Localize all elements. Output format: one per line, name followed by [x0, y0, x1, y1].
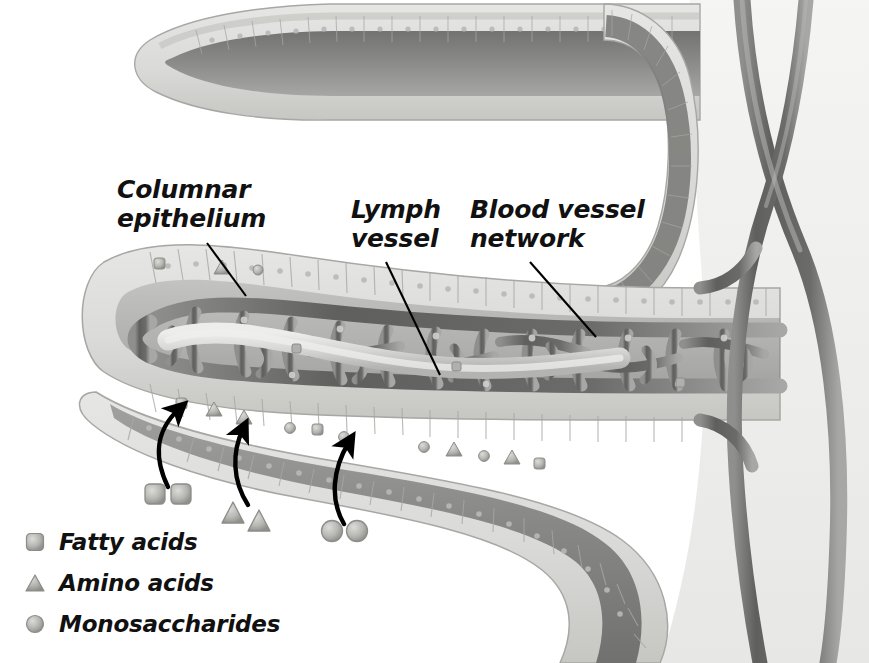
label-blood-vessel-network-line1: Blood vessel — [470, 195, 645, 224]
fatty-acid-icon — [24, 531, 46, 553]
lumen-monosaccharide-2 — [347, 521, 368, 542]
lumen-monosaccharide-1 — [322, 521, 343, 542]
label-blood-vessel-network: Blood vesselnetwork — [470, 196, 645, 253]
label-columnar-epithelium: Columnarepithelium — [117, 176, 266, 233]
label-lymph-vessel-line1: Lymph — [351, 195, 441, 224]
label-blood-vessel-network-line2: network — [470, 224, 585, 253]
monosaccharide-icon — [24, 613, 46, 635]
legend-label-amino-acids: Amino acids — [59, 570, 214, 596]
legend-label-monosaccharides: Monosaccharides — [59, 611, 280, 637]
villus-diagram: Columnarepithelium Lymphvessel Blood ves… — [0, 0, 869, 663]
lumen-fatty-acid-2 — [171, 484, 191, 504]
villus-illustration — [0, 0, 869, 663]
legend-label-fatty-acids: Fatty acids — [59, 529, 198, 555]
label-columnar-epithelium-line2: epithelium — [117, 204, 266, 233]
amino-acid-icon — [24, 572, 46, 594]
legend-item-fatty-acids: Fatty acids — [24, 529, 198, 555]
label-columnar-epithelium-line1: Columnar — [117, 175, 250, 204]
lumen-fatty-acid-1 — [145, 484, 165, 504]
legend-item-monosaccharides: Monosaccharides — [24, 611, 280, 637]
legend-item-amino-acids: Amino acids — [24, 570, 214, 596]
label-lymph-vessel: Lymphvessel — [351, 196, 441, 253]
label-lymph-vessel-line2: vessel — [351, 224, 438, 253]
